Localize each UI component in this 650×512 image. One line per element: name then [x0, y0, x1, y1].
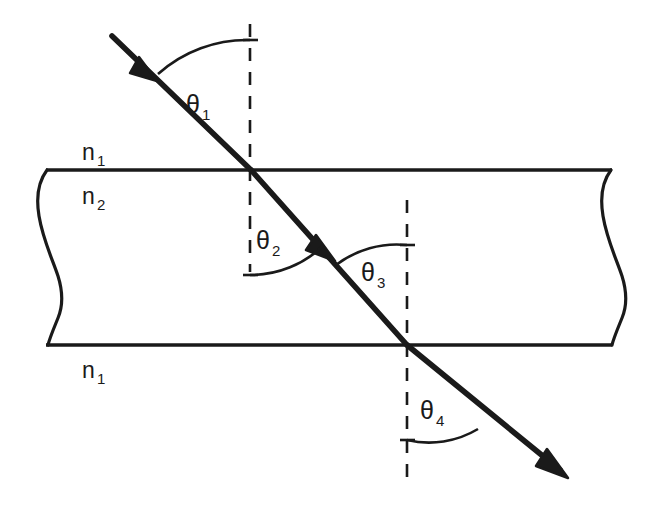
angle-theta-2-symbol: θ: [256, 226, 270, 254]
light-ray-path: [112, 36, 560, 470]
angle-theta-1-symbol: θ: [186, 90, 200, 118]
angle-theta-1-subscript: 1: [202, 106, 210, 123]
slab-right-broken-edge: [602, 170, 626, 345]
medium-above-label: n: [82, 139, 95, 165]
angle-theta-3-subscript: 3: [377, 274, 385, 291]
medium-slab-label-subscript: 2: [97, 196, 105, 213]
medium-slab-label: n: [82, 183, 95, 209]
diagram-canvas: n 1 n 2 n 1 θ 1 θ 2 θ 3 θ 4: [0, 0, 650, 512]
slab-left-broken-edge: [38, 170, 62, 345]
optics-refraction-diagram: n 1 n 2 n 1 θ 1 θ 2 θ 3 θ 4: [0, 0, 650, 512]
medium-below-label: n: [82, 357, 95, 383]
arc-theta-1: [158, 40, 250, 74]
angle-theta-3-symbol: θ: [361, 258, 375, 286]
medium-above-label-subscript: 1: [97, 152, 105, 169]
medium-below-label-subscript: 1: [97, 370, 105, 387]
angle-theta-2-subscript: 2: [272, 242, 280, 259]
angle-theta-4-subscript: 4: [436, 412, 444, 429]
angle-theta-4-symbol: θ: [420, 396, 434, 424]
refractive-index-labels: n 1 n 2 n 1: [82, 139, 105, 387]
arc-theta-4: [407, 429, 478, 443]
